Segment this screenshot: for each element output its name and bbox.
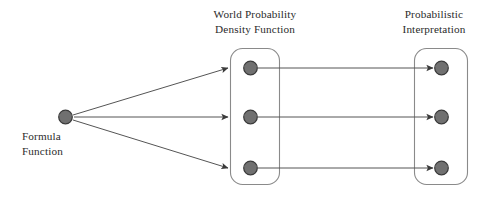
group-label-line-1: World Probability	[188, 7, 322, 22]
group-label-probabilistic-interpretation: Probabilistic Interpretation	[378, 7, 490, 36]
group-label-line-2: Interpretation	[378, 22, 490, 37]
group-label-world-probability-density-function: World Probability Density Function	[188, 7, 322, 36]
group-label-line-1: Probabilistic	[378, 7, 490, 22]
node-formula-function[interactable]	[59, 110, 73, 124]
diagram-canvas: World Probability Density Function Proba…	[0, 0, 495, 202]
node-interp-3[interactable]	[435, 161, 449, 175]
node-interp-1[interactable]	[435, 61, 449, 75]
source-label-formula-function: Formula Function	[22, 129, 102, 158]
node-wpdf-1[interactable]	[244, 61, 258, 75]
node-interp-2[interactable]	[435, 110, 449, 124]
edge-source-to-wpdf-1	[73, 68, 228, 115]
source-label-line-1: Formula	[22, 129, 102, 144]
node-wpdf-3[interactable]	[244, 161, 258, 175]
group-label-line-2: Density Function	[188, 22, 322, 37]
source-label-line-2: Function	[22, 144, 102, 159]
node-wpdf-2[interactable]	[244, 110, 258, 124]
